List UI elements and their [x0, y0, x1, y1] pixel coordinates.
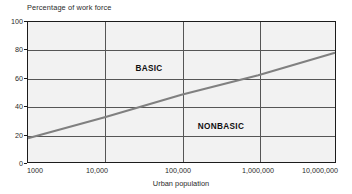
y-tick-label: 40 [15, 102, 23, 111]
y-tick-label: 80 [15, 45, 23, 54]
y-tick-mark [24, 78, 27, 79]
y-tick-label: 100 [11, 17, 23, 26]
y-tick-mark [24, 163, 27, 164]
y-tick-mark [24, 106, 27, 107]
y-tick-label: 0 [19, 159, 23, 168]
y-tick-label: 20 [15, 130, 23, 139]
y-tick-mark [24, 21, 27, 22]
x-axis-title: Urban population [153, 179, 209, 188]
y-axis-ticks: 100806040200 [0, 0, 352, 194]
x-tick-label: 1000 [27, 166, 43, 175]
x-tick-label: 100,000 [165, 166, 191, 175]
y-tick-mark [24, 49, 27, 50]
y-tick-mark [24, 135, 27, 136]
x-tick-label: 1,000,000 [242, 166, 274, 175]
chart-figure: Percentage of work force BASICNONBASIC 1… [0, 0, 352, 194]
y-tick-label: 60 [15, 73, 23, 82]
x-tick-label: 10,000 [86, 166, 108, 175]
x-tick-label: 10,000,000 [302, 166, 338, 175]
